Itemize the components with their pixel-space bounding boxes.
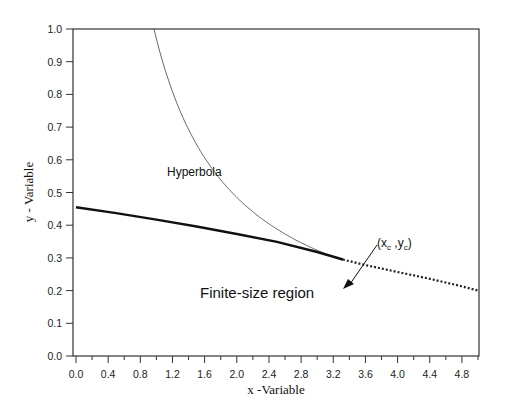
- x-tick-label: 0.4: [101, 368, 116, 380]
- y-tick-label: 0.0: [47, 350, 62, 362]
- hyperbola-label: Hyperbola: [167, 165, 222, 179]
- series-hyperbola: [154, 29, 342, 260]
- critical-point-label: (xc ,yc): [377, 236, 412, 252]
- x-tick-label: 1.6: [197, 368, 212, 380]
- y-tick-label: 1.0: [47, 23, 62, 35]
- y-tick-label: 0.5: [47, 187, 62, 199]
- finite-size-region-label: Finite-size region: [200, 284, 314, 301]
- y-tick-label: 0.6: [47, 154, 62, 166]
- x-tick-label: 0.0: [69, 368, 84, 380]
- x-axis-title: x -Variable: [247, 382, 305, 397]
- y-tick-label: 0.9: [47, 56, 62, 68]
- y-tick-label: 0.4: [47, 219, 62, 231]
- x-tick-label: 4.8: [455, 368, 470, 380]
- y-tick-label: 0.8: [47, 88, 62, 100]
- x-tick-label: 4.0: [390, 368, 405, 380]
- y-tick-label: 0.3: [47, 252, 62, 264]
- line-chart: 0.00.40.81.21.62.02.42.83.23.64.04.44.8 …: [0, 0, 505, 419]
- x-tick-label: 3.6: [358, 368, 373, 380]
- y-tick-label: 0.2: [47, 285, 62, 297]
- y-axis-ticks: 0.00.10.20.30.40.50.60.70.80.91.0: [47, 23, 73, 362]
- x-tick-label: 2.0: [229, 368, 244, 380]
- x-tick-label: 4.4: [422, 368, 437, 380]
- plot-frame: [73, 29, 479, 356]
- y-tick-label: 0.1: [47, 317, 62, 329]
- x-tick-label: 3.2: [326, 368, 341, 380]
- x-axis-ticks: 0.00.40.81.21.62.02.42.83.23.64.04.44.8: [69, 356, 478, 380]
- y-axis-title: y - Variable: [21, 162, 36, 223]
- series-group: [76, 29, 478, 291]
- x-tick-label: 0.8: [133, 368, 148, 380]
- x-tick-label: 1.2: [165, 368, 180, 380]
- svg-text:(xc ,yc): (xc ,yc): [377, 236, 412, 252]
- x-tick-label: 2.8: [294, 368, 309, 380]
- series-finite-size-boundary: [76, 207, 343, 259]
- x-tick-label: 2.4: [262, 368, 277, 380]
- y-tick-label: 0.7: [47, 121, 62, 133]
